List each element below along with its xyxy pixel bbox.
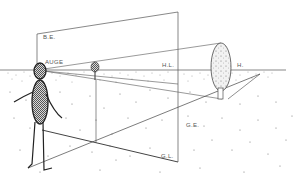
ground-plane-label: G.E. (186, 122, 199, 128)
observer-head (34, 63, 46, 79)
horizon-line-label: H.L. (162, 62, 174, 68)
picture-plane (37, 12, 178, 162)
horizon-point-label: H. (237, 62, 244, 68)
observer-body (32, 80, 48, 124)
eye-label: AUGE (45, 59, 63, 65)
ground-line-label: G.L. (161, 153, 174, 159)
diagram-canvas (0, 0, 304, 184)
observer-figure (14, 63, 62, 170)
sight-lines (44, 43, 222, 99)
large-tree (211, 43, 231, 99)
perspective-diagram: B.E. AUGE H.L. H. G.E. G.L. (0, 0, 304, 184)
picture-plane-label: B.E. (43, 34, 56, 40)
small-tree (91, 62, 99, 80)
ground-plane (8, 72, 293, 173)
